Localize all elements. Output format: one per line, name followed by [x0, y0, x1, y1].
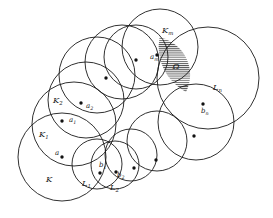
center-dot-a1 — [60, 119, 63, 122]
point-label-a: a — [55, 149, 59, 157]
center-dot-am — [155, 53, 158, 56]
set-label-K2: K2 — [52, 95, 63, 106]
omega-region-label: Ω — [172, 62, 180, 71]
figure-container: KK1K2KmL1L2Lnaa1a2amb1b2bnΩ — [0, 0, 273, 218]
point-label-b2: b2 — [117, 171, 125, 180]
set-label-Ln: Ln — [212, 82, 222, 93]
set-label-L1: L1 — [81, 178, 91, 189]
center-dot-d9 — [154, 158, 157, 161]
point-label-bn: bn — [201, 107, 209, 116]
disk-chain-diagram: KK1K2KmL1L2Lnaa1a2amb1b2bnΩ — [0, 0, 273, 218]
point-label-a1: a1 — [69, 116, 76, 125]
set-label-Km: Km — [161, 25, 173, 36]
center-dot-bn — [201, 102, 204, 105]
disk-outline-cbn — [158, 84, 234, 160]
set-label-K1: K1 — [38, 129, 49, 140]
diagram-labels: KK1K2KmL1L2Lnaa1a2amb1b2bnΩ — [38, 25, 222, 193]
center-dot-a — [60, 155, 63, 158]
disk-outline-c4 — [59, 37, 135, 113]
center-dot-a2 — [79, 101, 82, 104]
center-dot-d5 — [134, 58, 137, 61]
disk-outlines — [18, 9, 259, 201]
center-dot-d8 — [192, 134, 195, 137]
disk-outline-c11 — [105, 129, 157, 181]
disk-outline-c10 — [127, 111, 187, 171]
point-label-a2: a2 — [86, 102, 93, 111]
center-dot-d10 — [132, 166, 135, 169]
center-dot-b1 — [98, 171, 101, 174]
center-dot-d4 — [104, 76, 107, 79]
set-label-K: K — [45, 174, 53, 184]
set-label-L2: L2 — [109, 182, 119, 193]
